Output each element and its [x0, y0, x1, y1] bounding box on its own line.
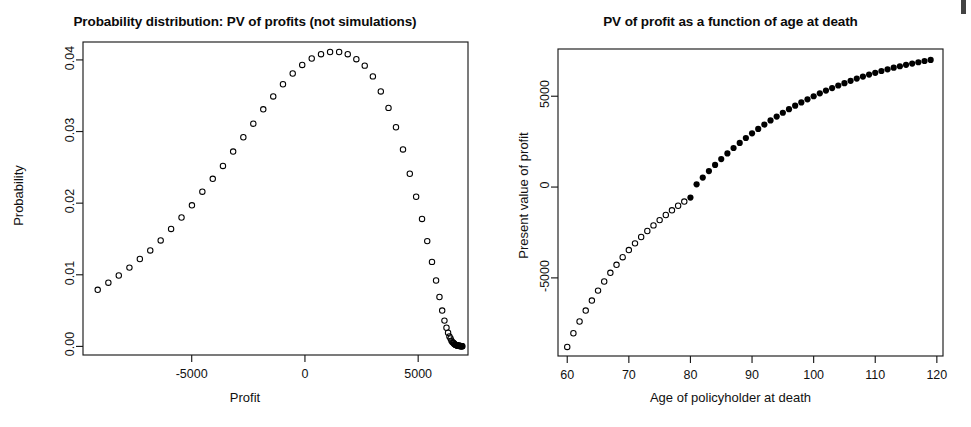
data-point-open — [429, 259, 434, 264]
y-tick-label: 0.02 — [63, 173, 77, 229]
data-point-open — [354, 56, 359, 61]
data-point-open — [106, 280, 111, 285]
data-point-filled — [798, 99, 804, 105]
data-point-open — [442, 318, 447, 323]
data-point-open — [309, 56, 314, 61]
data-point-filled — [755, 126, 761, 132]
data-point-open — [386, 105, 391, 110]
data-point-open — [189, 203, 194, 208]
x-tick-label: 90 — [745, 368, 759, 382]
data-point-open — [168, 226, 173, 231]
data-point-filled — [743, 135, 749, 141]
data-point-open — [595, 288, 600, 293]
data-point-open — [445, 330, 450, 335]
data-point-filled — [811, 93, 817, 99]
data-point-filled — [878, 68, 884, 74]
data-point-open — [675, 203, 680, 208]
data-point-filled — [854, 76, 860, 82]
data-point-open — [336, 49, 341, 54]
data-point-filled — [706, 168, 712, 174]
data-point-open — [583, 308, 588, 313]
data-point-filled — [872, 70, 878, 76]
data-point-open — [608, 270, 613, 275]
data-point-filled — [687, 194, 693, 200]
data-point-open — [602, 279, 607, 284]
data-point-open — [327, 49, 332, 54]
x-tick-label: 110 — [865, 368, 885, 382]
data-point-open — [439, 308, 444, 313]
data-point-filled — [780, 110, 786, 116]
x-tick-label: -5000 — [176, 367, 208, 381]
y-tick-label: 5000 — [538, 66, 552, 122]
data-point-filled — [749, 130, 755, 136]
data-point-open — [251, 121, 256, 126]
data-point-open — [241, 135, 246, 140]
data-point-open — [95, 287, 100, 292]
x-tick-label: 0 — [301, 367, 308, 381]
data-point-filled — [774, 113, 780, 119]
data-point-open — [413, 194, 418, 199]
data-point-filled — [737, 140, 743, 146]
data-point-open — [318, 51, 323, 56]
data-point-open — [179, 215, 184, 220]
data-point-open — [645, 228, 650, 233]
y-axis-title-left: Probability — [11, 116, 26, 276]
y-tick-label: 0.03 — [63, 102, 77, 158]
data-point-open — [200, 189, 205, 194]
data-point-open — [425, 238, 430, 243]
x-tick-label: 80 — [683, 368, 697, 382]
data-point-open — [620, 254, 625, 259]
data-point-filled — [694, 181, 700, 187]
x-tick-label: 60 — [560, 368, 574, 382]
y-tick-label: 0.01 — [63, 245, 77, 301]
data-point-filled — [829, 85, 835, 91]
data-point-open — [393, 125, 398, 130]
data-point-open — [682, 199, 687, 204]
data-point-filled — [817, 90, 823, 96]
data-point-filled — [718, 156, 724, 162]
plot-area-right — [490, 0, 971, 427]
data-point-open — [407, 171, 412, 176]
x-tick-label: 5000 — [404, 367, 432, 381]
data-point-open — [300, 62, 305, 67]
data-point-open — [230, 149, 235, 154]
data-point-filled — [897, 63, 903, 69]
data-point-open — [220, 163, 225, 168]
x-tick-label: 70 — [622, 368, 636, 382]
data-point-open — [669, 208, 674, 213]
data-point-open — [210, 176, 215, 181]
data-point-filled — [909, 60, 915, 66]
data-point-open — [362, 63, 367, 68]
data-point-open — [651, 223, 656, 228]
data-point-open — [271, 94, 276, 99]
data-point-open — [614, 262, 619, 267]
data-point-open — [290, 71, 295, 76]
data-point-open — [657, 217, 662, 222]
data-point-filled — [866, 72, 872, 78]
data-point-filled — [891, 65, 897, 71]
data-point-open — [632, 241, 637, 246]
data-point-open — [419, 216, 424, 221]
data-point-filled — [848, 78, 854, 84]
figure-root: Probability distribution: PV of profits … — [0, 0, 971, 427]
data-point-filled — [860, 74, 866, 80]
data-point-filled — [792, 103, 798, 109]
data-point-open — [148, 248, 153, 253]
data-point-open — [127, 265, 132, 270]
data-point-filled — [928, 57, 934, 63]
data-point-open — [638, 234, 643, 239]
data-point-filled — [730, 145, 736, 151]
data-point-filled — [700, 175, 706, 181]
data-point-filled — [761, 121, 767, 127]
data-point-open — [400, 147, 405, 152]
data-point-open — [158, 238, 163, 243]
data-point-filled — [786, 106, 792, 112]
scan-edge-artifact — [961, 0, 966, 14]
data-point-open — [345, 51, 350, 56]
data-point-open — [280, 82, 285, 87]
data-point-filled — [915, 59, 921, 65]
data-point-filled — [767, 117, 773, 123]
data-point-filled — [712, 162, 718, 168]
chart-panel-pv-vs-age: PV of profit as a function of age at dea… — [490, 0, 971, 427]
data-point-open — [565, 344, 570, 349]
